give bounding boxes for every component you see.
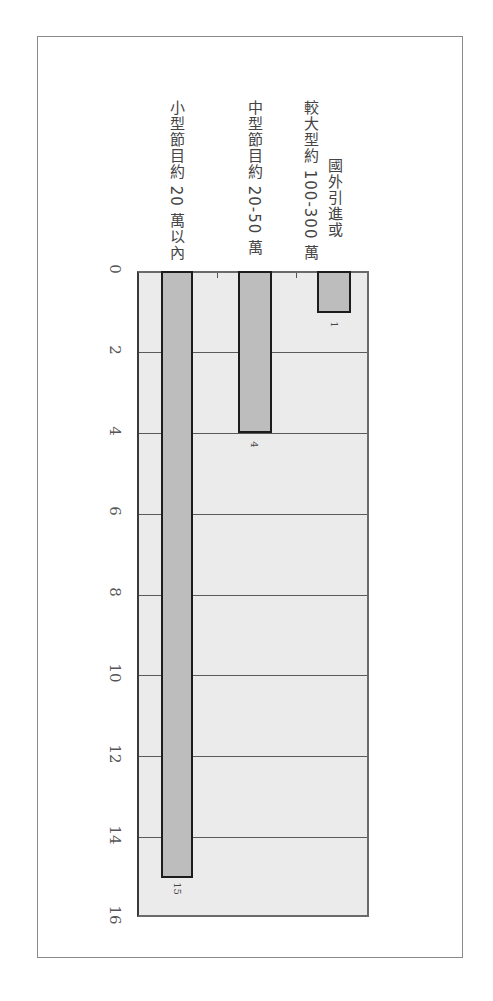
tick-10: 10 (106, 658, 124, 688)
bar-large (317, 271, 351, 313)
tick-14: 14 (106, 820, 124, 850)
data-label-medium: 4 (249, 441, 260, 447)
bar-small (161, 271, 193, 878)
tick-12: 12 (106, 739, 124, 769)
category-label-medium: 中型節目約 20-50 萬 (244, 100, 265, 256)
category-separator (296, 273, 297, 278)
tick-8: 8 (106, 577, 124, 607)
category-label-small: 小型節目約 20 萬以內 (166, 100, 187, 261)
category-label-large-line2: 較大型約 100-300 萬 (300, 100, 321, 261)
category-label-large-line1: 國外引進或 (324, 158, 345, 238)
tick-16: 16 (106, 900, 124, 930)
tick-6: 6 (106, 496, 124, 526)
data-label-large: 1 (329, 321, 340, 327)
category-separator (217, 273, 218, 278)
data-label-small: 15 (172, 882, 183, 895)
plot-area: 15 4 1 (137, 271, 369, 917)
tick-4: 4 (106, 416, 124, 446)
tick-2: 2 (106, 335, 124, 365)
tick-0: 0 (106, 254, 124, 284)
bar-medium (238, 271, 272, 433)
